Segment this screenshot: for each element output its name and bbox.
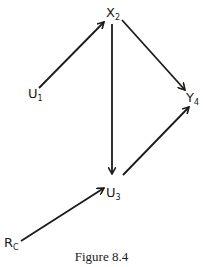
node-u1: U1 bbox=[28, 87, 43, 103]
figure-caption: Figure 8.4 bbox=[0, 249, 203, 265]
node-u3: U3 bbox=[106, 186, 121, 202]
edge-rc-u3 bbox=[21, 188, 104, 241]
edge-u3-y4 bbox=[123, 107, 189, 175]
diagram-edges bbox=[0, 0, 203, 267]
edge-u1-x2 bbox=[39, 22, 104, 88]
edge-x2-y4 bbox=[122, 20, 185, 90]
node-y4: Y4 bbox=[186, 91, 199, 107]
node-x2: X2 bbox=[106, 6, 120, 22]
